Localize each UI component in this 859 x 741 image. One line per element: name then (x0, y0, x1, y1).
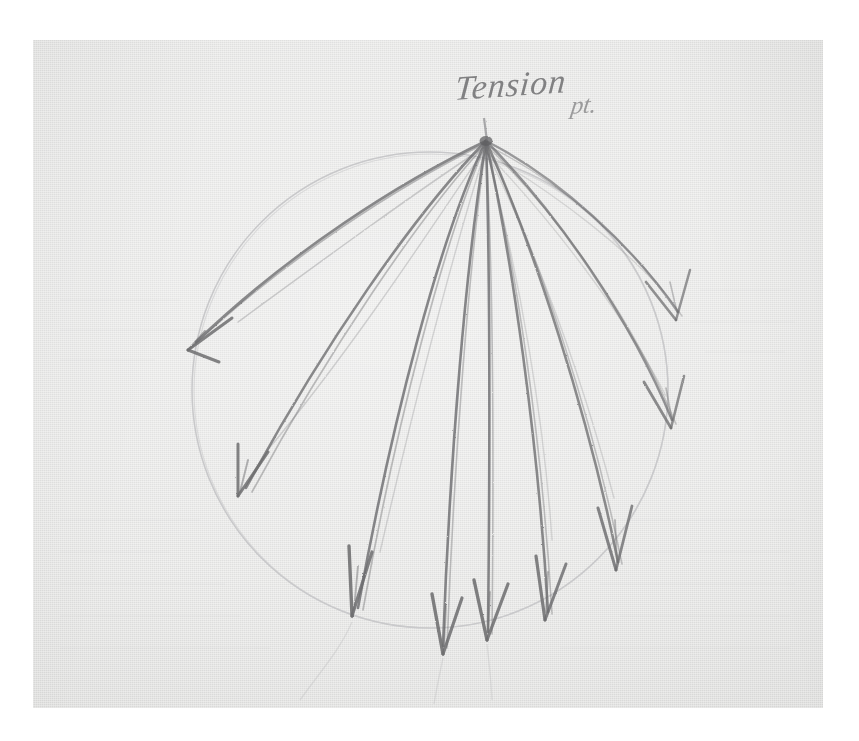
tail-strokes (300, 622, 492, 704)
arrow-3 (349, 141, 486, 616)
arrow-2 (238, 141, 486, 496)
force-arrows (188, 141, 690, 654)
ghost-showthrough (60, 290, 795, 648)
arrow-1 (188, 141, 486, 362)
apex-point (480, 118, 493, 146)
pencil-drawing (0, 0, 859, 741)
sketch-scene: Tensionpt. (0, 0, 859, 741)
arrow-7 (486, 141, 632, 570)
arrow-4 (432, 141, 486, 654)
arrow-6 (486, 141, 566, 620)
construction-circle (192, 152, 668, 628)
